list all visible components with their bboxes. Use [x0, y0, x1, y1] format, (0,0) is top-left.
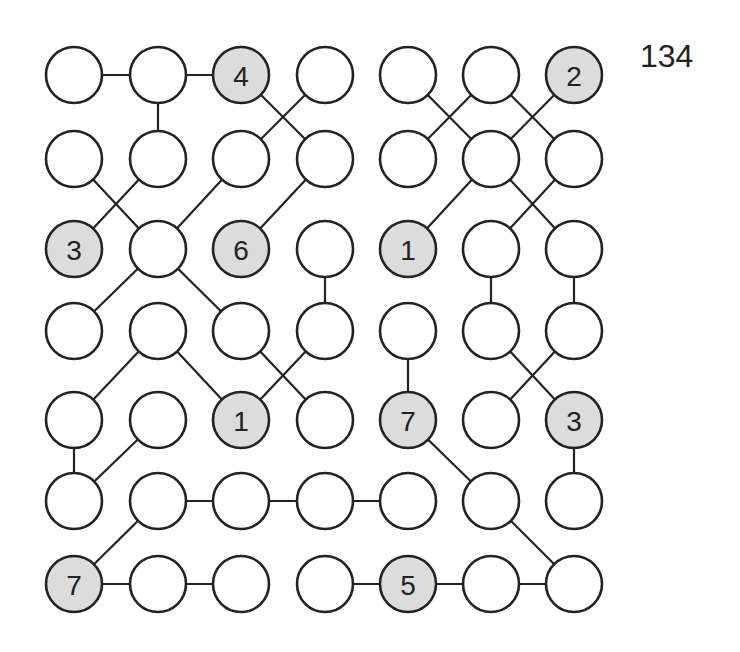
clue-island[interactable]: 1 — [213, 392, 269, 448]
island-circle[interactable] — [380, 47, 436, 103]
empty-island[interactable] — [297, 47, 353, 103]
clue-island[interactable]: 6 — [213, 221, 269, 277]
island-circle[interactable] — [130, 303, 186, 359]
clue-island[interactable]: 1 — [380, 221, 436, 277]
island-circle[interactable] — [297, 556, 353, 612]
empty-island[interactable] — [463, 303, 519, 359]
empty-island[interactable] — [130, 131, 186, 187]
island-circle[interactable] — [463, 131, 519, 187]
island-circle[interactable] — [130, 473, 186, 529]
empty-island[interactable] — [130, 303, 186, 359]
empty-island[interactable] — [297, 556, 353, 612]
clue-number: 2 — [566, 61, 582, 92]
island-circle[interactable] — [130, 556, 186, 612]
island-circle[interactable] — [380, 303, 436, 359]
empty-island[interactable] — [46, 131, 102, 187]
island-circle[interactable] — [380, 131, 436, 187]
empty-island[interactable] — [213, 131, 269, 187]
clue-number: 7 — [66, 570, 82, 601]
empty-island[interactable] — [463, 473, 519, 529]
clue-island[interactable]: 5 — [380, 556, 436, 612]
island-circle[interactable] — [463, 473, 519, 529]
empty-island[interactable] — [297, 221, 353, 277]
empty-island[interactable] — [463, 392, 519, 448]
island-circle[interactable] — [463, 392, 519, 448]
island-circle[interactable] — [297, 221, 353, 277]
empty-island[interactable] — [380, 131, 436, 187]
empty-island[interactable] — [546, 303, 602, 359]
empty-island[interactable] — [297, 303, 353, 359]
island-circle[interactable] — [546, 131, 602, 187]
empty-island[interactable] — [46, 47, 102, 103]
empty-island[interactable] — [380, 47, 436, 103]
empty-island[interactable] — [463, 131, 519, 187]
empty-island[interactable] — [297, 131, 353, 187]
empty-island[interactable] — [463, 556, 519, 612]
empty-island[interactable] — [546, 473, 602, 529]
clue-number: 1 — [233, 406, 249, 437]
island-circle[interactable] — [46, 47, 102, 103]
clue-number: 7 — [400, 406, 416, 437]
island-circle[interactable] — [297, 131, 353, 187]
island-circle[interactable] — [46, 473, 102, 529]
clue-island[interactable]: 7 — [380, 392, 436, 448]
empty-island[interactable] — [546, 221, 602, 277]
puzzle-board: 4236117375 — [0, 0, 740, 652]
island-circle[interactable] — [213, 131, 269, 187]
island-circle[interactable] — [130, 47, 186, 103]
clue-number: 3 — [566, 406, 582, 437]
empty-island[interactable] — [297, 392, 353, 448]
island-circle[interactable] — [546, 303, 602, 359]
empty-island[interactable] — [46, 473, 102, 529]
empty-island[interactable] — [130, 392, 186, 448]
clue-island[interactable]: 3 — [546, 392, 602, 448]
empty-island[interactable] — [380, 473, 436, 529]
island-circle[interactable] — [130, 131, 186, 187]
island-circle[interactable] — [213, 556, 269, 612]
island-circle[interactable] — [546, 556, 602, 612]
clue-number: 4 — [233, 61, 249, 92]
empty-island[interactable] — [130, 221, 186, 277]
empty-island[interactable] — [546, 556, 602, 612]
island-circle[interactable] — [297, 473, 353, 529]
island-circle[interactable] — [463, 221, 519, 277]
empty-island[interactable] — [213, 473, 269, 529]
empty-island[interactable] — [546, 131, 602, 187]
clue-number: 5 — [400, 570, 416, 601]
empty-island[interactable] — [46, 303, 102, 359]
island-circle[interactable] — [297, 303, 353, 359]
empty-island[interactable] — [130, 473, 186, 529]
clue-number: 1 — [400, 235, 416, 266]
clue-number: 3 — [66, 235, 82, 266]
empty-island[interactable] — [463, 47, 519, 103]
island-circle[interactable] — [213, 303, 269, 359]
island-circle[interactable] — [546, 473, 602, 529]
clue-island[interactable]: 7 — [46, 556, 102, 612]
empty-island[interactable] — [213, 303, 269, 359]
empty-island[interactable] — [130, 556, 186, 612]
clue-island[interactable]: 3 — [46, 221, 102, 277]
empty-island[interactable] — [297, 473, 353, 529]
island-circle[interactable] — [46, 392, 102, 448]
island-circle[interactable] — [463, 556, 519, 612]
island-circle[interactable] — [297, 392, 353, 448]
island-circle[interactable] — [380, 473, 436, 529]
island-circle[interactable] — [546, 221, 602, 277]
empty-island[interactable] — [380, 303, 436, 359]
empty-island[interactable] — [130, 47, 186, 103]
island-circle[interactable] — [463, 303, 519, 359]
clue-number: 6 — [233, 235, 249, 266]
empty-island[interactable] — [46, 392, 102, 448]
empty-island[interactable] — [213, 556, 269, 612]
island-circle[interactable] — [463, 47, 519, 103]
island-circle[interactable] — [46, 131, 102, 187]
island-circle[interactable] — [130, 392, 186, 448]
clue-island[interactable]: 2 — [546, 47, 602, 103]
island-circle[interactable] — [46, 303, 102, 359]
clue-island[interactable]: 4 — [213, 47, 269, 103]
island-circle[interactable] — [213, 473, 269, 529]
empty-island[interactable] — [463, 221, 519, 277]
island-circle[interactable] — [297, 47, 353, 103]
island-circle[interactable] — [130, 221, 186, 277]
